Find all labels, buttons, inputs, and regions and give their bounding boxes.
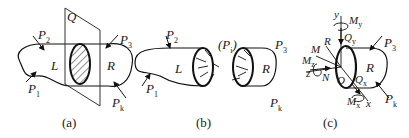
force-p3-label-c: P3 xyxy=(384,36,396,53)
force-p3-label-a: P3 xyxy=(120,33,132,50)
resultant-moment-m-label: M xyxy=(311,44,320,55)
panel-b xyxy=(135,36,276,86)
force-p1-label-a: P1 xyxy=(28,82,40,99)
caption-b: (b) xyxy=(196,116,211,129)
left-part-label-b: L xyxy=(175,62,182,75)
force-pk-label-a: Pk xyxy=(112,96,124,113)
force-p2-label-b: P2 xyxy=(166,28,178,45)
axial-force-n-label: N xyxy=(322,72,329,83)
right-part-label-a: R xyxy=(107,59,115,72)
origin-o-label: O xyxy=(337,75,345,86)
internal-force-section-diagram: Q L R P2 P1 P3 Pk (a) L R (Pi) P2 P1 P3 … xyxy=(0,0,409,138)
force-p2-label-a: P2 xyxy=(38,28,50,45)
right-part-label-b: R xyxy=(262,62,270,75)
resultant-force-r-label: R xyxy=(324,36,331,47)
caption-c: (c) xyxy=(323,116,337,129)
plane-q-label: Q xyxy=(67,10,76,23)
force-p1-label-b: P1 xyxy=(146,82,158,99)
moment-my-label: My xyxy=(349,15,362,29)
internal-force-pi-label: (Pi) xyxy=(218,38,237,55)
shear-qy-label: Qy xyxy=(344,32,356,46)
force-p3-label-b: P3 xyxy=(275,38,287,55)
left-part-label-a: L xyxy=(51,59,58,72)
axis-y-label: y xyxy=(334,9,339,20)
axis-z-label: z xyxy=(306,68,310,79)
moment-mx-label: Mx xyxy=(347,96,360,110)
axis-x-label: x xyxy=(366,98,371,109)
right-part-label-c: R xyxy=(366,61,374,74)
panel-c xyxy=(306,16,389,102)
force-pk-label-c: Pk xyxy=(385,92,397,109)
caption-a: (a) xyxy=(62,116,76,129)
force-pk-label-b: Pk xyxy=(270,96,282,113)
shear-qx-label: Qx xyxy=(355,74,367,88)
